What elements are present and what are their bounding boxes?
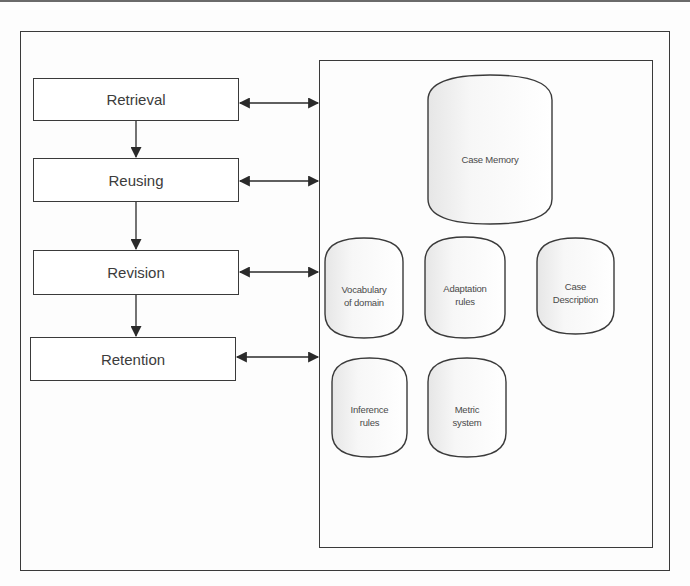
store-metric-system: Metric system: [428, 382, 506, 452]
store-label: Adaptation rules: [443, 283, 486, 309]
store-case-description: Case Description: [537, 262, 614, 326]
store-label: Case Description: [553, 281, 598, 307]
store-label: Inference rules: [351, 404, 389, 430]
store-label: Metric system: [453, 404, 482, 430]
store-adaptation-rules: Adaptation rules: [425, 261, 505, 331]
store-label: Case Memory: [462, 154, 519, 167]
store-case-memory: Case Memory: [428, 100, 552, 220]
store-label: Vocabulary of domain: [341, 284, 386, 310]
store-inference-rules: Inference rules: [332, 382, 407, 452]
store-vocabulary-of-domain: Vocabulary of domain: [325, 262, 403, 332]
